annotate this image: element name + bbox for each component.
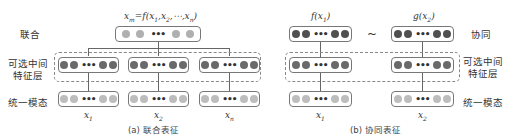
input-box-2: ••• <box>391 91 454 107</box>
input-label-xn: xn <box>225 110 234 122</box>
row-label-coord: 协同 <box>471 29 491 40</box>
ellipsis-icon: ••• <box>415 61 429 69</box>
node-dot <box>70 95 78 103</box>
node-dot <box>331 30 339 38</box>
node-dot <box>130 61 138 69</box>
node-dot <box>250 61 258 69</box>
row-label-modal: 统一模态 <box>463 97 503 108</box>
node-dot <box>292 95 300 103</box>
row-label-feature-2: 特征层 <box>13 70 43 81</box>
row-label-feature-1: 可选中间 <box>463 56 503 67</box>
caption-joint: (a) 联合表征 <box>128 123 179 135</box>
feature-box-2: ••• <box>391 57 454 73</box>
node-dot <box>394 95 402 103</box>
node-dot <box>109 61 117 69</box>
node-dot <box>136 30 144 38</box>
node-dot <box>60 95 68 103</box>
node-dot <box>404 30 412 38</box>
ellipsis-icon: ••• <box>313 95 327 103</box>
input-box-n: ••• <box>199 91 260 107</box>
input-label-x2: x2 <box>154 110 163 122</box>
ellipsis-icon: ••• <box>151 61 165 69</box>
caption-coordinated: (b) 协同表征 <box>350 123 401 135</box>
row-label-feature-1: 可选中间 <box>8 58 48 69</box>
node-dot <box>443 61 451 69</box>
coord-box-2: ••• <box>391 26 454 42</box>
node-dot <box>140 61 148 69</box>
row-label-modal: 统一模态 <box>8 97 48 108</box>
feature-box-1: ••• <box>289 57 352 73</box>
node-dot <box>292 61 300 69</box>
node-dot <box>201 95 209 103</box>
row-label-joint: 联合 <box>20 29 40 40</box>
ellipsis-icon: ••• <box>415 95 429 103</box>
ellipsis-icon: ••• <box>313 61 327 69</box>
node-dot <box>172 30 180 38</box>
input-box-1: ••• <box>58 91 119 107</box>
node-dot <box>404 61 412 69</box>
node-dot <box>331 61 339 69</box>
joint-formula: xm=f(x1,x2,⋯,xn) <box>124 11 197 23</box>
node-dot <box>99 61 107 69</box>
node-dot <box>179 61 187 69</box>
node-dot <box>250 95 258 103</box>
node-dot <box>169 95 177 103</box>
node-dot <box>292 30 300 38</box>
similarity-icon: ~ <box>367 29 377 40</box>
node-dot <box>433 30 441 38</box>
node-dot <box>443 95 451 103</box>
ellipsis-icon: ••• <box>222 95 236 103</box>
ellipsis-icon: ••• <box>81 95 95 103</box>
ellipsis-icon: ••• <box>222 61 236 69</box>
connector-line <box>229 73 230 91</box>
ellipsis-icon: ••• <box>81 61 95 69</box>
node-dot <box>109 95 117 103</box>
node-dot <box>341 30 349 38</box>
node-dot <box>443 30 451 38</box>
node-dot <box>302 30 310 38</box>
node-dot <box>99 95 107 103</box>
node-dot <box>169 61 177 69</box>
feature-box-n: ••• <box>199 57 260 73</box>
label-g-x2: g(x2) <box>413 11 435 23</box>
ellipsis-icon: ••• <box>151 30 165 38</box>
node-dot <box>211 61 219 69</box>
node-dot <box>433 61 441 69</box>
node-dot <box>186 30 194 38</box>
ellipsis-icon: ••• <box>415 30 429 38</box>
node-dot <box>240 61 248 69</box>
node-dot <box>240 95 248 103</box>
node-dot <box>140 95 148 103</box>
node-dot <box>130 95 138 103</box>
input-box-1: ••• <box>289 91 352 107</box>
input-box-2: ••• <box>128 91 189 107</box>
connector-line <box>88 73 89 91</box>
node-dot <box>341 95 349 103</box>
node-dot <box>404 95 412 103</box>
row-label-feature-2: 特征层 <box>468 68 498 79</box>
connector-line <box>158 73 159 91</box>
input-label-x1: x1 <box>316 110 325 122</box>
connector-line <box>422 73 423 91</box>
input-label-x2: x2 <box>418 110 427 122</box>
feature-box-1: ••• <box>58 57 119 73</box>
joint-vector-box: ••• <box>115 26 201 42</box>
node-dot <box>394 30 402 38</box>
node-dot <box>302 61 310 69</box>
node-dot <box>211 95 219 103</box>
connector-line <box>320 73 321 91</box>
feature-box-2: ••• <box>128 57 189 73</box>
node-dot <box>302 95 310 103</box>
node-dot <box>433 95 441 103</box>
ellipsis-icon: ••• <box>151 95 165 103</box>
node-dot <box>60 61 68 69</box>
node-dot <box>331 95 339 103</box>
ellipsis-icon: ••• <box>313 30 327 38</box>
node-dot <box>70 61 78 69</box>
label-f-x1: f(x1) <box>311 11 330 23</box>
node-dot <box>341 61 349 69</box>
coord-box-1: ••• <box>289 26 352 42</box>
node-dot <box>179 95 187 103</box>
node-dot <box>394 61 402 69</box>
node-dot <box>201 61 209 69</box>
